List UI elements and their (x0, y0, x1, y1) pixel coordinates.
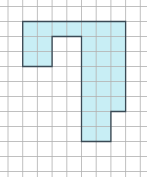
shaded-cell (82, 97, 97, 112)
shaded-cell (96, 112, 111, 127)
shaded-cell (96, 22, 111, 37)
shaded-cell (82, 127, 97, 142)
shaded-cell (96, 97, 111, 112)
grid-diagram (0, 0, 147, 177)
shaded-cell (96, 127, 111, 142)
shaded-cell (96, 52, 111, 67)
shaded-cell (96, 67, 111, 82)
shaded-cell (37, 22, 52, 37)
shaded-cell (37, 37, 52, 52)
shaded-cell (82, 37, 97, 52)
shaded-cell (82, 52, 97, 67)
shaded-cell (82, 112, 97, 127)
shaded-cell (82, 67, 97, 82)
shaded-cell (111, 82, 126, 97)
shaded-cell (82, 82, 97, 97)
shaded-cell (111, 52, 126, 67)
shaded-cell (111, 22, 126, 37)
shaded-cell (96, 37, 111, 52)
shaded-cell (37, 52, 52, 67)
shaded-cell (111, 37, 126, 52)
shaded-cell (82, 22, 97, 37)
shaded-cell (23, 22, 38, 37)
shaded-cell (111, 97, 126, 112)
shaded-cell (23, 37, 38, 52)
shaded-cell (67, 22, 82, 37)
shaded-cell (111, 67, 126, 82)
shaded-cell (23, 52, 38, 67)
shaded-cell (52, 22, 67, 37)
shaded-cell (96, 82, 111, 97)
